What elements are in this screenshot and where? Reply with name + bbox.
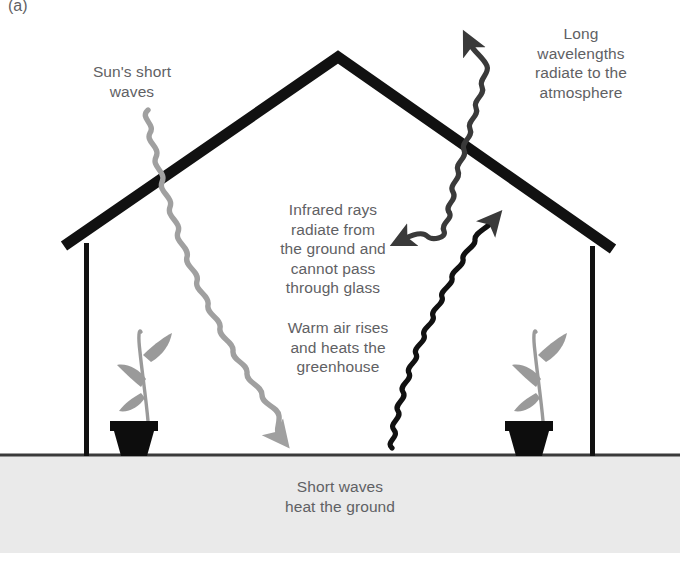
greenhouse-left-wall [84,243,89,456]
panel-letter: (a) [8,0,28,16]
infrared-reflected-arrow [404,212,450,239]
outgoing-long-wave-arrow [448,44,488,212]
label-sun-short-waves: Sun's short waves [52,62,212,101]
potted-plant-left [110,331,172,456]
label-infrared-rays: Infrared rays radiate from the ground an… [258,200,408,298]
greenhouse-right-wall [590,246,595,456]
label-short-waves-heat-ground: Short waves heat the ground [248,477,432,516]
potted-plant-right [505,331,567,456]
label-warm-air-rises: Warm air rises and heats the greenhouse [258,318,418,377]
greenhouse-effect-figure: (a) Sun's short waves Long wavelengths r… [0,0,680,566]
label-long-wavelengths: Long wavelengths radiate to the atmosphe… [498,24,664,102]
